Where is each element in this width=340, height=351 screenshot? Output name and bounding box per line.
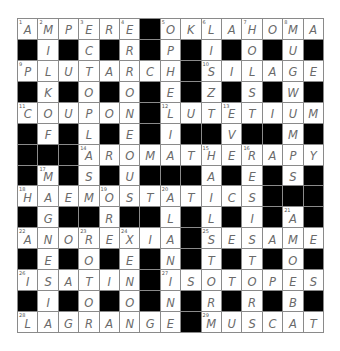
letter-cell[interactable]: G	[140, 312, 160, 333]
letter-cell[interactable]: P	[79, 103, 99, 124]
letter-cell[interactable]: 23R	[79, 228, 99, 249]
letter-cell[interactable]: 15H	[202, 145, 222, 166]
letter-cell[interactable]: 9P	[18, 61, 38, 82]
letter-cell[interactable]: A	[100, 61, 120, 82]
letter-cell[interactable]: S	[242, 82, 262, 103]
letter-cell[interactable]: E	[161, 312, 181, 333]
letter-cell[interactable]: T	[79, 61, 99, 82]
letter-cell[interactable]: T	[242, 103, 262, 124]
letter-cell[interactable]: 8M	[283, 19, 303, 40]
letter-cell[interactable]: O	[120, 291, 140, 312]
letter-cell[interactable]: S	[79, 166, 99, 187]
letter-cell[interactable]: M	[283, 124, 303, 145]
letter-cell[interactable]: T	[222, 270, 242, 291]
letter-cell[interactable]: 26I	[18, 270, 38, 291]
letter-cell[interactable]: A	[38, 312, 58, 333]
letter-cell[interactable]: 4E	[120, 19, 140, 40]
letter-cell[interactable]: Z	[202, 82, 222, 103]
letter-cell[interactable]: O	[120, 82, 140, 103]
letter-cell[interactable]: I	[140, 228, 160, 249]
letter-cell[interactable]: 22A	[18, 228, 38, 249]
letter-cell[interactable]: A	[222, 19, 242, 40]
letter-cell[interactable]: 10S	[202, 61, 222, 82]
letter-cell[interactable]: A	[100, 312, 120, 333]
letter-cell[interactable]: L	[79, 124, 99, 145]
letter-cell[interactable]: E	[120, 249, 140, 270]
letter-cell[interactable]: 24X	[120, 228, 140, 249]
letter-cell[interactable]: U	[120, 166, 140, 187]
letter-cell[interactable]: O	[79, 82, 99, 103]
letter-cell[interactable]: N	[161, 291, 181, 312]
letter-cell[interactable]: O	[59, 228, 79, 249]
letter-cell[interactable]: E	[161, 82, 181, 103]
letter-cell[interactable]: O	[120, 145, 140, 166]
letter-cell[interactable]: 19O	[100, 186, 120, 207]
letter-cell[interactable]: 7H	[242, 19, 262, 40]
letter-cell[interactable]: A	[161, 228, 181, 249]
letter-cell[interactable]: O	[38, 103, 58, 124]
letter-cell[interactable]: A	[283, 312, 303, 333]
letter-cell[interactable]: R	[120, 40, 140, 61]
letter-cell[interactable]: I	[100, 270, 120, 291]
letter-cell[interactable]: R	[100, 145, 120, 166]
letter-cell[interactable]: P	[283, 145, 303, 166]
letter-cell[interactable]: M	[283, 228, 303, 249]
letter-cell[interactable]: 11C	[18, 103, 38, 124]
letter-cell[interactable]: L	[38, 61, 58, 82]
letter-cell[interactable]: 14A	[79, 145, 99, 166]
letter-cell[interactable]: S	[283, 166, 303, 187]
letter-cell[interactable]: U	[59, 61, 79, 82]
letter-cell[interactable]: I	[38, 291, 58, 312]
letter-cell[interactable]: E	[222, 228, 242, 249]
letter-cell[interactable]: A	[263, 228, 283, 249]
letter-cell[interactable]: O	[100, 103, 120, 124]
letter-cell[interactable]: I	[242, 207, 262, 228]
letter-cell[interactable]: S	[120, 186, 140, 207]
letter-cell[interactable]: N	[161, 249, 181, 270]
letter-cell[interactable]: R	[79, 312, 99, 333]
letter-cell[interactable]: N	[120, 103, 140, 124]
letter-cell[interactable]: N	[120, 312, 140, 333]
letter-cell[interactable]: L	[202, 207, 222, 228]
letter-cell[interactable]: I	[38, 40, 58, 61]
letter-cell[interactable]: I	[263, 103, 283, 124]
letter-cell[interactable]: P	[161, 40, 181, 61]
letter-cell[interactable]: A	[263, 61, 283, 82]
letter-cell[interactable]: T	[140, 186, 160, 207]
letter-cell[interactable]: E	[38, 249, 58, 270]
letter-cell[interactable]: S	[181, 270, 201, 291]
letter-cell[interactable]: R	[100, 207, 120, 228]
letter-cell[interactable]: S	[242, 228, 262, 249]
letter-cell[interactable]: T	[304, 312, 324, 333]
letter-cell[interactable]: S	[304, 270, 324, 291]
letter-cell[interactable]: O	[79, 249, 99, 270]
letter-cell[interactable]: U	[283, 103, 303, 124]
letter-cell[interactable]: G	[59, 312, 79, 333]
letter-cell[interactable]: T	[79, 270, 99, 291]
letter-cell[interactable]: C	[222, 186, 242, 207]
letter-cell[interactable]: M	[79, 186, 99, 207]
letter-cell[interactable]: 12L	[161, 103, 181, 124]
letter-cell[interactable]: T	[202, 103, 222, 124]
letter-cell[interactable]: P	[263, 270, 283, 291]
letter-cell[interactable]: 20A	[161, 186, 181, 207]
letter-cell[interactable]: A	[202, 166, 222, 187]
letter-cell[interactable]: S	[242, 312, 262, 333]
letter-cell[interactable]: R	[120, 61, 140, 82]
letter-cell[interactable]: 16R	[242, 145, 262, 166]
letter-cell[interactable]: O	[202, 270, 222, 291]
letter-cell[interactable]: A	[263, 145, 283, 166]
letter-cell[interactable]: U	[181, 103, 201, 124]
letter-cell[interactable]: O	[283, 249, 303, 270]
letter-cell[interactable]: A	[38, 186, 58, 207]
letter-cell[interactable]: C	[263, 312, 283, 333]
letter-cell[interactable]: 27I	[161, 270, 181, 291]
letter-cell[interactable]: M	[140, 145, 160, 166]
letter-cell[interactable]: F	[38, 124, 58, 145]
letter-cell[interactable]: G	[38, 207, 58, 228]
letter-cell[interactable]: E	[100, 228, 120, 249]
letter-cell[interactable]: E	[283, 270, 303, 291]
letter-cell[interactable]: I	[202, 186, 222, 207]
letter-cell[interactable]: V	[222, 124, 242, 145]
letter-cell[interactable]: E	[304, 228, 324, 249]
